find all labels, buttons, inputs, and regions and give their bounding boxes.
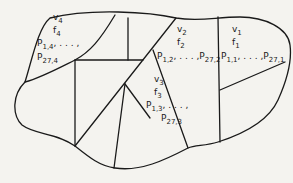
region-4-p-last: P27,4: [37, 52, 58, 66]
region-1-p: P1,1, . . . ,P27,1: [221, 51, 284, 65]
region-3-p-last: P27,3: [161, 113, 182, 127]
region-4-f: f4: [53, 25, 61, 39]
region-4-p-first: P1,4, . . . ,: [37, 38, 79, 52]
region-1-v: v1: [232, 24, 242, 38]
region-3-v: v3: [154, 74, 164, 88]
edge-right-vertical: [218, 17, 220, 142]
region-2-v: v2: [177, 24, 187, 38]
region-3-p-first: P1,3, . . . ,: [146, 100, 188, 114]
region-3-f: f3: [154, 87, 162, 101]
region-2-f: f2: [177, 37, 185, 51]
edge-inner-a: [114, 84, 125, 168]
region-2-p: P1,2, . . . ,P27,2: [157, 51, 220, 65]
edge-v1-lower: [220, 62, 285, 90]
region-1-f: f1: [232, 37, 240, 51]
partition-diagram: [0, 0, 293, 183]
region-4-v: v4: [53, 12, 63, 26]
